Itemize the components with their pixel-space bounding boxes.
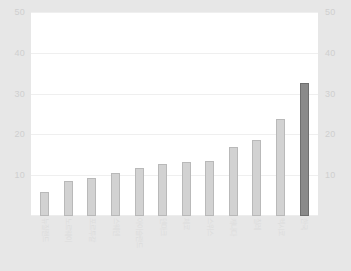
bar-slot [198,12,222,216]
y-axis-tick-label: 10 [325,171,336,180]
bar[interactable] [64,181,73,216]
x-axis-tick-label: 스웨덴 [112,218,119,236]
x-axis-label-slot: 멕시코 [269,216,293,271]
plot-area [31,12,318,216]
x-axis-label-slot: 칠레 [245,216,269,271]
bar-slot [292,12,316,216]
y-axis-left: 1020304050 [0,12,29,216]
y-axis-tick-label: 30 [14,90,25,99]
bar-slot [222,12,246,216]
x-axis-tick-label: 뉴질랜드 [41,218,48,242]
x-axis-tick-label: 체코 [183,218,190,230]
bar[interactable] [205,161,214,216]
x-axis-tick-label: 포르투갈 [88,218,95,242]
y-axis-tick-label: 50 [325,8,336,17]
bar[interactable] [276,119,285,216]
y-axis-tick-label: 30 [325,90,336,99]
bar[interactable] [135,168,144,216]
bar[interactable] [40,192,49,216]
y-axis-tick-label: 50 [14,8,25,17]
x-axis-label-slot: 스위스 [198,216,222,271]
x-axis-label-slot: 덴마크 [151,216,175,271]
bar[interactable] [111,173,120,216]
x-axis-tick-label: 캐나다 [230,218,237,236]
x-axis-label-slot: 체코 [174,216,198,271]
bar-slot [174,12,198,216]
x-axis-label-slot: 스웨덴 [104,216,128,271]
y-axis-tick-label: 10 [14,171,25,180]
bar-chart: 1020304050 1020304050 뉴질랜드노르웨이포르투갈스웨덴아이슬… [0,0,351,271]
bar-slot [151,12,175,216]
bar-slot [269,12,293,216]
bar-slot [57,12,81,216]
bar[interactable] [87,178,96,216]
x-axis-tick-label: 덴마크 [159,218,166,236]
y-axis-right: 1020304050 [320,12,351,216]
x-axis-tick-label: 한국 [301,218,308,230]
bar-slot [80,12,104,216]
x-axis-tick-label: 노르웨이 [65,218,72,242]
bar-slot [33,12,57,216]
bar[interactable] [300,83,309,216]
x-axis-label-slot: 뉴질랜드 [33,216,57,271]
bar-slot [127,12,151,216]
bar[interactable] [229,147,238,216]
y-axis-tick-label: 20 [14,130,25,139]
x-axis-label-slot: 캐나다 [222,216,246,271]
x-axis-label-slot: 아이슬란드 [127,216,151,271]
bar[interactable] [158,164,167,216]
bar-slot [245,12,269,216]
x-axis-label-slot: 한국 [292,216,316,271]
bar-slot [104,12,128,216]
bar[interactable] [182,162,191,216]
bar[interactable] [252,140,261,216]
x-axis-labels: 뉴질랜드노르웨이포르투갈스웨덴아이슬란드덴마크체코스위스캐나다칠레멕시코한국 [31,216,318,271]
x-axis-tick-label: 칠레 [253,218,260,230]
y-axis-tick-label: 40 [14,49,25,58]
x-axis-tick-label: 멕시코 [277,218,284,236]
x-axis-label-slot: 노르웨이 [57,216,81,271]
x-axis-label-slot: 포르투갈 [80,216,104,271]
y-axis-tick-label: 40 [325,49,336,58]
x-axis-tick-label: 아이슬란드 [136,218,143,248]
bars-container [31,12,318,216]
x-axis-tick-label: 스위스 [206,218,213,236]
y-axis-tick-label: 20 [325,130,336,139]
